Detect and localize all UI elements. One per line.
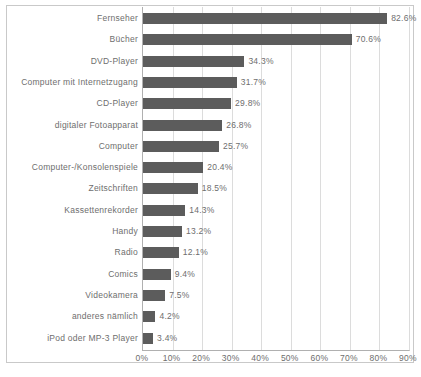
bar (143, 141, 219, 152)
x-tick-label: 90% (399, 353, 417, 363)
bar (143, 205, 185, 216)
bar-value-label: 25.7% (223, 136, 248, 157)
x-tick-label: 20% (192, 353, 210, 363)
bar-row: Comics9.4% (143, 264, 409, 285)
category-label: Videokamera (85, 285, 138, 306)
bar (143, 183, 198, 194)
category-label: Kassettenrekorder (64, 200, 138, 221)
bar-row: DVD-Player34.3% (143, 51, 409, 72)
bar (143, 13, 387, 24)
category-label: anderes nämlich (72, 306, 138, 327)
x-tick-label: 10% (163, 353, 181, 363)
bar-value-label: 9.4% (175, 264, 195, 285)
x-tick-label: 40% (251, 353, 269, 363)
category-label: Computer-/Konsolenspiele (32, 157, 138, 178)
category-label: Zeitschriften (88, 178, 138, 199)
bar (143, 290, 165, 301)
bar-row: Zeitschriften18.5% (143, 178, 409, 199)
x-tick-label: 70% (340, 353, 358, 363)
bar (143, 269, 171, 280)
bar (143, 333, 153, 344)
bar (143, 311, 155, 322)
category-label: Radio (115, 242, 138, 263)
bar (143, 120, 222, 131)
category-label: Computer (99, 136, 138, 157)
bar-value-label: 4.2% (159, 306, 179, 327)
bar-row: Computer mit Internetzugang31.7% (143, 72, 409, 93)
bar-value-label: 34.3% (248, 51, 273, 72)
bar (143, 226, 182, 237)
bar-value-label: 14.3% (189, 200, 214, 221)
x-tick-label: 80% (370, 353, 388, 363)
bar-row: iPod oder MP-3 Player3.4% (143, 328, 409, 349)
category-label: Computer mit Internetzugang (21, 72, 138, 93)
gridline (409, 7, 410, 350)
bar-value-label: 82.6% (391, 8, 416, 29)
bar-value-label: 70.6% (356, 29, 381, 50)
bar (143, 56, 244, 67)
bar-value-label: 18.5% (202, 178, 227, 199)
category-label: iPod oder MP-3 Player (47, 328, 138, 349)
x-tick-label: 30% (222, 353, 240, 363)
bar-row: Videokamera7.5% (143, 285, 409, 306)
bar (143, 34, 352, 45)
bar-value-label: 7.5% (169, 285, 189, 306)
category-label: Comics (108, 264, 138, 285)
bar-row: Computer25.7% (143, 136, 409, 157)
bar (143, 247, 179, 258)
category-label: digitaler Fotoapparat (55, 115, 138, 136)
category-label: Bücher (110, 29, 138, 50)
bar-value-label: 26.8% (226, 115, 251, 136)
plot-area: Fernseher82.6%Bücher70.6%DVD-Player34.3%… (142, 7, 410, 351)
x-tick-label: 50% (281, 353, 299, 363)
bar-row: anderes nämlich4.2% (143, 306, 409, 327)
bar-row: Handy13.2% (143, 221, 409, 242)
bar-rows: Fernseher82.6%Bücher70.6%DVD-Player34.3%… (143, 7, 409, 350)
chart-figure: Fernseher82.6%Bücher70.6%DVD-Player34.3%… (0, 0, 421, 377)
bar (143, 98, 231, 109)
bar-row: digitaler Fotoapparat26.8% (143, 115, 409, 136)
category-label: DVD-Player (91, 51, 138, 72)
category-label: Fernseher (97, 8, 138, 29)
x-tick-label: 60% (310, 353, 328, 363)
category-label: CD-Player (97, 93, 138, 114)
bar-row: Computer-/Konsolenspiele20.4% (143, 157, 409, 178)
bar (143, 77, 237, 88)
bar-row: Kassettenrekorder14.3% (143, 200, 409, 221)
bar-value-label: 12.1% (183, 242, 208, 263)
bar-value-label: 20.4% (207, 157, 232, 178)
bar-value-label: 3.4% (157, 328, 177, 349)
category-label: Handy (112, 221, 138, 242)
bar (143, 162, 203, 173)
bar-row: Bücher70.6% (143, 29, 409, 50)
x-tick-label: 0% (136, 353, 149, 363)
bar-row: Fernseher82.6% (143, 8, 409, 29)
x-axis-tick-labels: 0%10%20%30%40%50%60%70%80%90% (142, 353, 410, 367)
bar-value-label: 29.8% (235, 93, 260, 114)
bar-row: Radio12.1% (143, 242, 409, 263)
bar-value-label: 31.7% (241, 72, 266, 93)
bar-row: CD-Player29.8% (143, 93, 409, 114)
bar-value-label: 13.2% (186, 221, 211, 242)
